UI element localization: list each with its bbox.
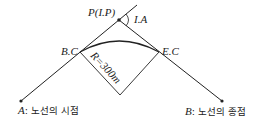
start-point-a [19,99,22,102]
intersection-angle-arc [126,14,129,26]
tangent-line-end [119,20,222,101]
end-point-b [220,99,223,102]
bc-label: B.C [61,45,78,57]
ia-label: I.A [133,13,147,25]
end-label: B: 노선의 종점 [185,105,246,117]
ip-label: P(I.P) [87,6,116,19]
ip-point [117,18,121,22]
route-curve-diagram: P(I.P) I.A B.C E.C R=300m A: 노선의 시점 B: 노… [0,0,259,121]
radius-line-ec [120,52,159,95]
ec-label: E.C [161,45,179,57]
start-label: A: 노선의 시점 [17,104,79,116]
